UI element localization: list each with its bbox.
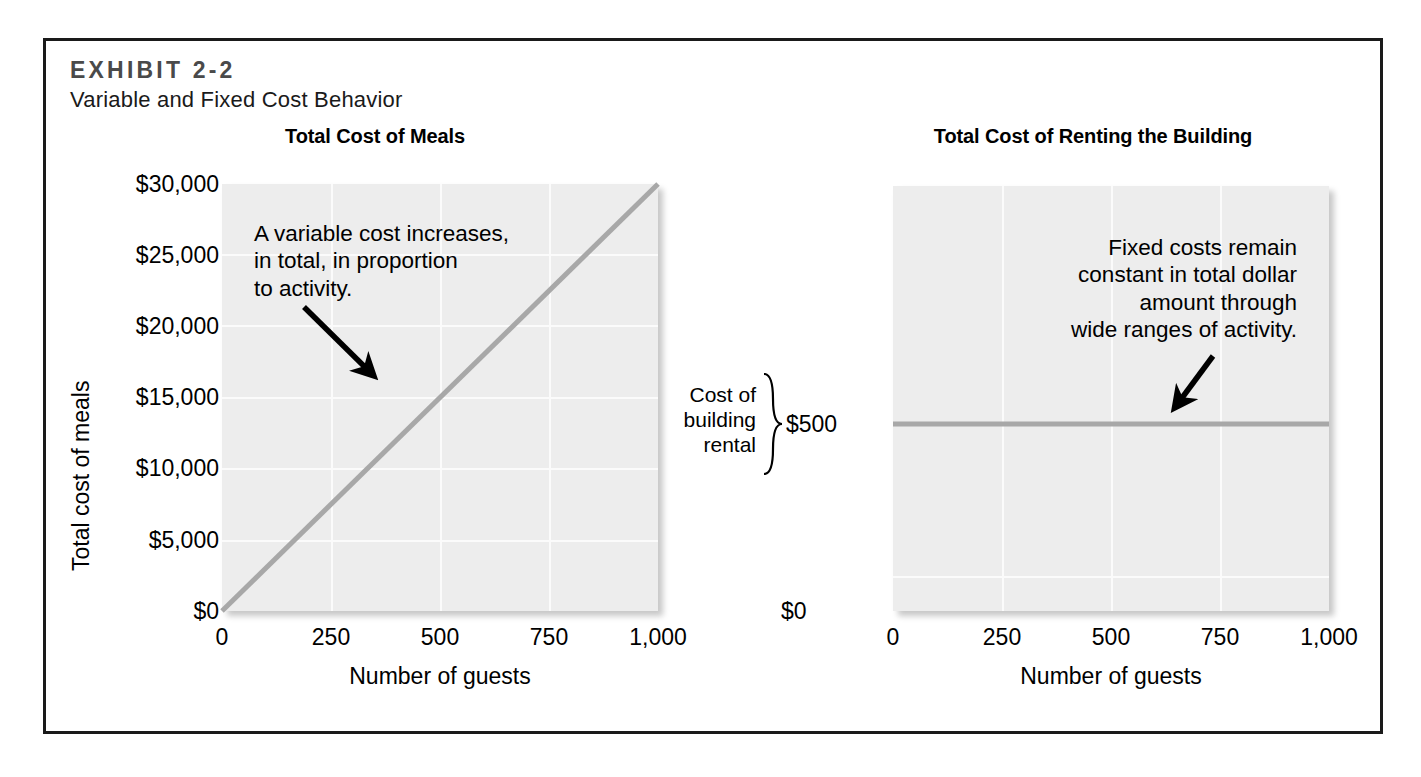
right-x-tick-250: 250 bbox=[983, 624, 1021, 651]
left-x-tick-0: 0 bbox=[216, 624, 229, 651]
left-y-tick-0: $0 bbox=[104, 598, 219, 625]
right-x-tick-500: 500 bbox=[1092, 624, 1130, 651]
left-y-tick-5000: $5,000 bbox=[104, 527, 219, 554]
right-chart-plot-area: Fixed costs remain constant in total dol… bbox=[893, 186, 1329, 611]
left-y-tick-25000: $25,000 bbox=[104, 242, 219, 269]
left-x-tick-250: 250 bbox=[312, 624, 350, 651]
exhibit-subtitle: Variable and Fixed Cost Behavior bbox=[70, 86, 403, 114]
right-chart-annotation-text: Fixed costs remain constant in total dol… bbox=[1043, 234, 1297, 344]
left-x-tick-750: 750 bbox=[530, 624, 568, 651]
curly-brace-icon bbox=[762, 373, 784, 475]
left-chart-title: Total Cost of Meals bbox=[65, 125, 685, 148]
right-y-tick-500: $500 bbox=[786, 411, 837, 438]
right-chart-bracket-label: Cost of building rental bbox=[656, 383, 756, 457]
left-x-tick-500: 500 bbox=[421, 624, 459, 651]
left-x-tick-1000: 1,000 bbox=[629, 624, 687, 651]
exhibit-frame: EXHIBIT 2-2 Variable and Fixed Cost Beha… bbox=[43, 38, 1383, 734]
left-chart-y-axis-title: Total cost of meals bbox=[68, 381, 95, 571]
right-x-tick-1000: 1,000 bbox=[1300, 624, 1358, 651]
right-chart-title: Total Cost of Renting the Building bbox=[783, 125, 1403, 148]
right-x-tick-750: 750 bbox=[1201, 624, 1239, 651]
right-x-tick-0: 0 bbox=[887, 624, 900, 651]
right-chart-x-axis-title: Number of guests bbox=[1020, 663, 1202, 690]
left-chart-x-axis-title: Number of guests bbox=[349, 663, 531, 690]
exhibit-heading: EXHIBIT 2-2 Variable and Fixed Cost Beha… bbox=[70, 57, 403, 114]
right-y-tick-0: $0 bbox=[781, 598, 807, 625]
left-chart-plot-area: A variable cost increases, in total, in … bbox=[222, 184, 658, 611]
left-y-tick-10000: $10,000 bbox=[104, 455, 219, 482]
exhibit-number: EXHIBIT 2-2 bbox=[70, 57, 403, 83]
left-y-tick-20000: $20,000 bbox=[104, 313, 219, 340]
left-y-tick-30000: $30,000 bbox=[104, 171, 219, 198]
left-chart-annotation-text: A variable cost increases, in total, in … bbox=[254, 220, 509, 302]
left-y-tick-15000: $15,000 bbox=[104, 384, 219, 411]
